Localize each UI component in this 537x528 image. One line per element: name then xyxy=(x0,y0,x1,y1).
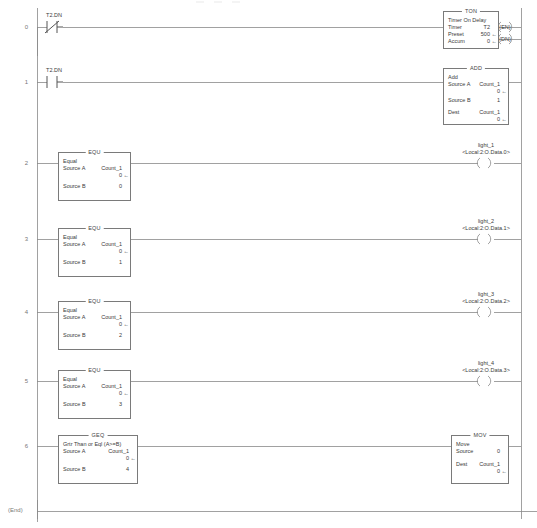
contact-rung0-t2dn[interactable]: T2.DN xyxy=(45,21,63,33)
param-label: Preset xyxy=(448,31,464,38)
param-operand: Count_1 xyxy=(108,448,129,455)
block-body: Move Source 0 Dest Count_1 0 xyxy=(452,436,508,483)
param-label: Source A xyxy=(63,448,85,455)
param-operand: Count_1 xyxy=(101,241,122,248)
rung-number-4: 4 xyxy=(8,309,28,315)
block-mnemonic: Move xyxy=(456,441,504,448)
param-label: Source B xyxy=(448,97,471,104)
param-row[interactable]: Dest Count_1 xyxy=(448,109,504,116)
param-label: Source B xyxy=(63,259,86,266)
param-value: 0 xyxy=(497,448,500,455)
param-value: 3 xyxy=(119,401,122,408)
param-value: 0 xyxy=(119,390,122,397)
instruction-block-add[interactable]: ADD Add Source A Count_1 0 Source B 1 De… xyxy=(443,68,509,125)
param-value: 1 xyxy=(119,259,122,266)
block-body: Equal Source A Count_1 0 Source B 2 xyxy=(59,302,130,349)
param-label: Source xyxy=(456,448,473,455)
coil-address-label: <Local:2:O.Data.1> xyxy=(462,225,510,232)
param-value: 500 xyxy=(481,31,490,38)
block-mnemonic: Timer On Delay xyxy=(448,17,494,24)
rung-number-6: 6 xyxy=(8,443,28,449)
rung-number-5: 5 xyxy=(8,378,28,384)
param-label: Dest xyxy=(456,461,467,468)
param-row[interactable]: Accum 0 xyxy=(448,38,494,45)
param-operand: Count_1 xyxy=(479,81,500,88)
param-operand: T2 xyxy=(484,24,490,31)
coil-light-1[interactable]: light_1 <Local:2:O.Data.0> xyxy=(478,158,494,168)
contact-rung1-t2dn[interactable]: T2.DN xyxy=(45,76,63,88)
coil-address-label: <Local:2:O.Data.2> xyxy=(462,298,510,305)
coil-inline-label: (EN) xyxy=(499,24,510,30)
param-value: 4 xyxy=(126,466,129,473)
param-value-row: 0 xyxy=(63,455,133,462)
param-value: 0 xyxy=(119,321,122,328)
rung-number-3: 3 xyxy=(8,236,28,242)
coil-tag-label: light_2 xyxy=(478,218,494,225)
param-row[interactable]: Source 0 xyxy=(456,448,504,455)
instruction-block-equ-rung2[interactable]: EQU Equal Source A Count_1 0 Source B 0 xyxy=(58,152,131,201)
instruction-block-equ-rung5[interactable]: EQU Equal Source A Count_1 0 Source B 3 xyxy=(58,370,131,419)
coil-ton-dn[interactable]: (DN) xyxy=(499,33,511,45)
param-value: 0 xyxy=(119,248,122,255)
block-mnemonic: Add xyxy=(448,74,504,81)
param-row[interactable]: Timer T2 xyxy=(448,24,494,31)
block-body: Equal Source A Count_1 0 Source B 0 xyxy=(59,153,130,200)
param-operand: Count_1 xyxy=(479,109,500,116)
param-label: Source A xyxy=(63,165,85,172)
param-row[interactable]: Source A Count_1 xyxy=(63,448,133,455)
param-operand: Count_1 xyxy=(101,165,122,172)
param-value: 1 xyxy=(497,97,500,104)
block-mnemonic: Equal xyxy=(63,158,126,165)
param-value-row: 0 xyxy=(448,116,504,123)
coil-light-4[interactable]: light_4 <Local:2:O.Data.3> xyxy=(478,376,494,386)
param-value: 0 xyxy=(487,38,490,45)
param-value: 2 xyxy=(119,332,122,339)
param-row[interactable]: Source B 0 xyxy=(63,183,126,190)
param-row[interactable]: Source A Count_1 xyxy=(448,81,504,88)
param-row[interactable]: Source B 2 xyxy=(63,332,126,339)
param-row[interactable]: Preset 500 xyxy=(448,31,494,38)
param-row[interactable]: Source B 3 xyxy=(63,401,126,408)
block-body: Grtr Than or Eql (A>=B) Source A Count_1… xyxy=(59,436,137,483)
param-label: Source B xyxy=(63,332,86,339)
param-row[interactable]: Source A Count_1 xyxy=(63,241,126,248)
instruction-block-equ-rung4[interactable]: EQU Equal Source A Count_1 0 Source B 2 xyxy=(58,301,131,350)
param-value: 0 xyxy=(119,183,122,190)
param-label: Dest xyxy=(448,109,459,116)
instruction-block-ton[interactable]: TON Timer On Delay Timer T2 Preset 500 A… xyxy=(443,11,499,49)
param-label: Accum xyxy=(448,38,465,45)
param-row[interactable]: Source B 1 xyxy=(448,97,504,104)
param-row[interactable]: Source A Count_1 xyxy=(63,383,126,390)
block-mnemonic: Equal xyxy=(63,234,126,241)
coil-ton-en[interactable]: (EN) xyxy=(499,21,511,33)
param-operand: Count_1 xyxy=(479,461,500,468)
param-row[interactable]: Dest Count_1 xyxy=(456,461,504,468)
param-label: Timer xyxy=(448,24,462,31)
param-value-row: 0 xyxy=(63,321,126,328)
param-label: Source A xyxy=(448,81,470,88)
end-of-routine-label: (End) xyxy=(8,507,23,513)
block-mnemonic: Equal xyxy=(63,307,126,314)
param-row[interactable]: Source A Count_1 xyxy=(63,165,126,172)
block-mnemonic: Equal xyxy=(63,376,126,383)
param-label: Source B xyxy=(63,466,86,473)
instruction-block-equ-rung3[interactable]: EQU Equal Source A Count_1 0 Source B 1 xyxy=(58,228,131,277)
param-row[interactable]: Source A Count_1 xyxy=(63,314,126,321)
param-value-row: 0 xyxy=(456,468,504,475)
instruction-block-mov[interactable]: MOV Move Source 0 Dest Count_1 0 xyxy=(451,435,509,484)
contact-tag-label: T2.DN xyxy=(46,12,62,18)
block-body: Equal Source A Count_1 0 Source B 3 xyxy=(59,371,130,418)
param-value: 0 xyxy=(497,468,500,475)
param-value: 0 xyxy=(119,172,122,179)
coil-inline-label: (DN) xyxy=(499,36,511,42)
coil-light-3[interactable]: light_3 <Local:2:O.Data.2> xyxy=(478,307,494,317)
param-value: 0 xyxy=(126,455,129,462)
coil-address-label: <Local:2:O.Data.0> xyxy=(462,149,510,156)
param-value: 0 xyxy=(497,88,500,95)
param-row[interactable]: Source B 1 xyxy=(63,259,126,266)
param-label: Source B xyxy=(63,183,86,190)
coil-tag-label: light_4 xyxy=(478,360,494,367)
param-row[interactable]: Source B 4 xyxy=(63,466,133,473)
instruction-block-geq[interactable]: GEQ Grtr Than or Eql (A>=B) Source A Cou… xyxy=(58,435,138,484)
coil-light-2[interactable]: light_2 <Local:2:O.Data.1> xyxy=(478,234,494,244)
